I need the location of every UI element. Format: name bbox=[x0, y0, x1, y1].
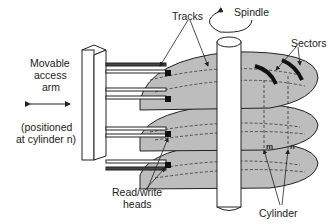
disk-drive-illustration bbox=[0, 0, 331, 224]
label-arm-line1: Movable bbox=[30, 57, 70, 69]
label-heads-line1: Read/write bbox=[112, 186, 162, 198]
label-arm-line2: access bbox=[34, 69, 67, 81]
spindle bbox=[217, 37, 241, 211]
movable-arm-block bbox=[82, 45, 106, 160]
label-sectors: Sectors bbox=[291, 37, 327, 49]
label-positioned-line1: (positioned bbox=[21, 121, 72, 133]
label-heads-line2: heads bbox=[123, 198, 152, 210]
disk-drive-diagram: Tracks Spindle Sectors Movable access ar… bbox=[0, 0, 331, 224]
label-spindle: Spindle bbox=[234, 6, 269, 18]
label-arm-line3: arm bbox=[42, 81, 60, 93]
marker-m: m bbox=[266, 141, 273, 153]
label-cylinder: Cylinder bbox=[259, 207, 298, 219]
label-positioned-line2: at cylinder n) bbox=[16, 133, 76, 145]
label-tracks: Tracks bbox=[172, 10, 203, 22]
marker-n: n bbox=[290, 141, 295, 153]
